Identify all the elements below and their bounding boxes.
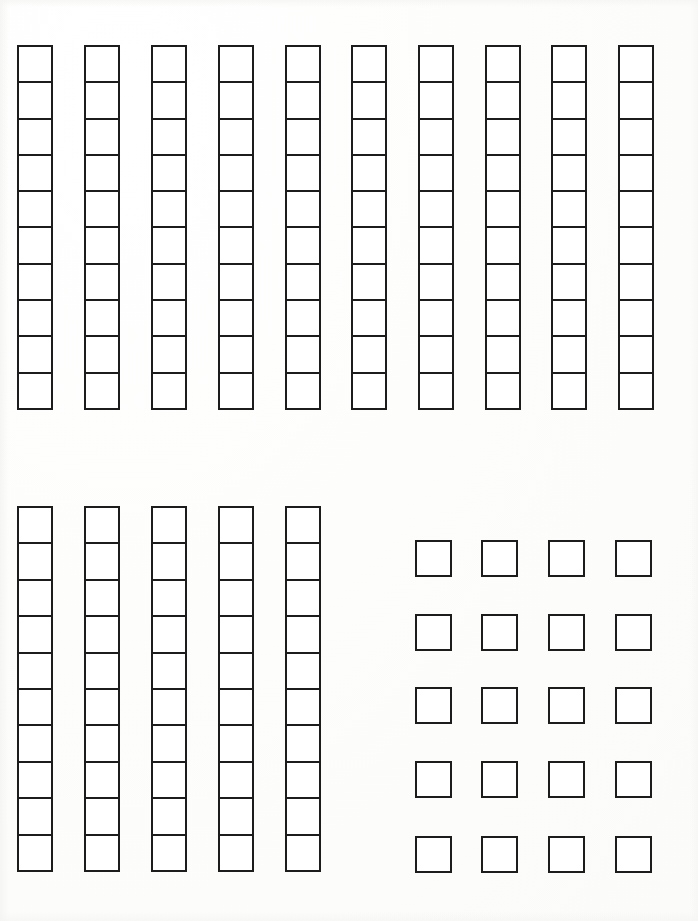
single-unit-square — [548, 761, 585, 798]
rod-unit-square — [153, 508, 185, 544]
rod-unit-square — [19, 192, 51, 228]
rod-unit-square — [287, 337, 319, 373]
rod-unit-square — [420, 228, 452, 264]
single-unit-square — [615, 836, 652, 873]
rod-unit-square — [86, 192, 118, 228]
rod-unit-square — [220, 581, 252, 617]
rod-unit-square — [353, 337, 385, 373]
rod-unit-square — [553, 265, 585, 301]
single-unit-square — [415, 836, 452, 873]
rod-unit-square — [420, 120, 452, 156]
rod-unit-square — [86, 156, 118, 192]
rod-unit-square — [620, 156, 652, 192]
rod-unit-square — [153, 192, 185, 228]
rod-unit-square — [86, 265, 118, 301]
rod-unit-square — [86, 83, 118, 119]
rod-unit-square — [220, 228, 252, 264]
rod-unit-square — [220, 763, 252, 799]
rod-unit-square — [287, 690, 319, 726]
rod-unit-square — [19, 301, 51, 337]
rod-unit-square — [553, 156, 585, 192]
rod-unit-square — [287, 654, 319, 690]
single-unit-square — [615, 614, 652, 651]
rod-unit-square — [153, 47, 185, 83]
rod-unit-square — [153, 544, 185, 580]
rod-unit-square — [153, 799, 185, 835]
rod-unit-square — [220, 690, 252, 726]
rod-unit-square — [420, 265, 452, 301]
rod-unit-square — [287, 120, 319, 156]
rod-unit-square — [86, 836, 118, 870]
rod-unit-square — [19, 374, 51, 408]
rod-unit-square — [353, 265, 385, 301]
rod-unit-square — [620, 265, 652, 301]
rod-unit-square — [353, 156, 385, 192]
ten-rod — [17, 45, 53, 410]
rod-unit-square — [19, 836, 51, 870]
rod-unit-square — [620, 47, 652, 83]
rod-unit-square — [153, 654, 185, 690]
ten-rod — [285, 45, 321, 410]
rod-unit-square — [19, 581, 51, 617]
rod-unit-square — [153, 228, 185, 264]
rod-unit-square — [19, 726, 51, 762]
rod-unit-square — [86, 763, 118, 799]
rod-unit-square — [153, 581, 185, 617]
rod-unit-square — [487, 156, 519, 192]
ten-rod — [485, 45, 521, 410]
rod-unit-square — [220, 301, 252, 337]
rod-unit-square — [86, 374, 118, 408]
rod-unit-square — [86, 544, 118, 580]
rod-unit-square — [19, 799, 51, 835]
rod-unit-square — [19, 156, 51, 192]
rod-unit-square — [86, 301, 118, 337]
rod-unit-square — [420, 47, 452, 83]
rod-unit-square — [420, 83, 452, 119]
rod-unit-square — [353, 47, 385, 83]
rod-unit-square — [220, 265, 252, 301]
single-unit-square — [481, 836, 518, 873]
rod-unit-square — [487, 228, 519, 264]
rod-unit-square — [487, 301, 519, 337]
rod-unit-square — [153, 617, 185, 653]
rod-unit-square — [86, 337, 118, 373]
ten-rod — [351, 45, 387, 410]
ten-rod — [218, 506, 254, 872]
rod-unit-square — [153, 156, 185, 192]
single-unit-square — [548, 540, 585, 577]
ten-rod — [17, 506, 53, 872]
rod-unit-square — [620, 192, 652, 228]
ten-rod — [151, 506, 187, 872]
rod-unit-square — [86, 799, 118, 835]
rod-unit-square — [287, 265, 319, 301]
rod-unit-square — [220, 374, 252, 408]
rod-unit-square — [220, 654, 252, 690]
rod-unit-square — [420, 156, 452, 192]
rod-unit-square — [19, 228, 51, 264]
rod-unit-square — [487, 374, 519, 408]
rod-unit-square — [620, 120, 652, 156]
rod-unit-square — [353, 301, 385, 337]
rod-unit-square — [287, 301, 319, 337]
rod-unit-square — [153, 120, 185, 156]
rod-unit-square — [220, 192, 252, 228]
rod-unit-square — [487, 265, 519, 301]
rod-unit-square — [153, 265, 185, 301]
rod-unit-square — [420, 192, 452, 228]
rod-unit-square — [287, 374, 319, 408]
rod-unit-square — [353, 83, 385, 119]
single-unit-square — [548, 836, 585, 873]
rod-unit-square — [153, 836, 185, 870]
rod-unit-square — [553, 301, 585, 337]
rod-unit-square — [620, 374, 652, 408]
rod-unit-square — [19, 120, 51, 156]
single-unit-square — [481, 761, 518, 798]
rod-unit-square — [620, 83, 652, 119]
rod-unit-square — [287, 83, 319, 119]
rod-unit-square — [220, 617, 252, 653]
rod-unit-square — [19, 763, 51, 799]
ten-rod — [618, 45, 654, 410]
rod-unit-square — [553, 47, 585, 83]
single-unit-square — [481, 687, 518, 724]
rod-unit-square — [487, 120, 519, 156]
